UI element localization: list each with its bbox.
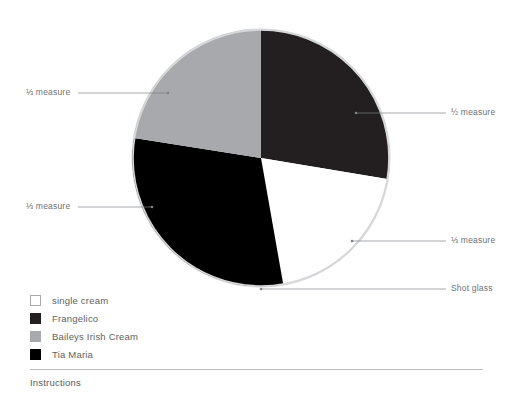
legend-swatch-single-cream <box>30 295 41 306</box>
legend-item-baileys-irish-cream: Baileys Irish Cream <box>30 328 250 345</box>
callout-label-baileys-measure: ⅓ measure <box>26 88 70 97</box>
legend-label-single-cream: single cream <box>52 296 108 306</box>
instructions-heading: Instructions <box>30 378 81 388</box>
legend-item-single-cream: single cream <box>30 292 250 309</box>
legend-label-tia-maria: Tia Maria <box>52 350 93 360</box>
legend-swatch-tia-maria <box>30 349 41 360</box>
leader-dot-left-top <box>167 92 170 95</box>
pie-slice-tia-maria <box>132 138 283 286</box>
leader-dot-left-bottom <box>151 206 154 209</box>
cocktail-recipe-pie-figure: ⅓ measure ⅓ measure ½ measure ⅓ measure … <box>0 0 513 405</box>
pie-slice-baileys-irish-cream <box>134 30 261 158</box>
callout-label-frangelico-measure: ½ measure <box>451 108 495 117</box>
legend-item-frangelico: Frangelico <box>30 310 250 327</box>
footer-divider <box>30 369 483 370</box>
callout-label-tia-maria-measure: ⅓ measure <box>26 202 70 211</box>
legend-item-tia-maria: Tia Maria <box>30 346 250 363</box>
callout-label-single-cream-measure: ⅓ measure <box>451 236 495 245</box>
pie-slice-single-cream <box>261 158 387 284</box>
leader-dot-shot-glass <box>260 288 263 291</box>
leader-dot-right-top <box>355 112 358 115</box>
callout-label-shot-glass: Shot glass <box>451 284 493 293</box>
legend-label-frangelico: Frangelico <box>52 314 98 324</box>
legend-label-baileys-irish-cream: Baileys Irish Cream <box>52 332 138 342</box>
legend: single cream Frangelico Baileys Irish Cr… <box>30 292 250 364</box>
legend-swatch-baileys-irish-cream <box>30 331 41 342</box>
pie-slice-frangelico <box>261 30 389 179</box>
leader-dot-right-mid <box>351 240 354 243</box>
legend-swatch-frangelico <box>30 313 41 324</box>
